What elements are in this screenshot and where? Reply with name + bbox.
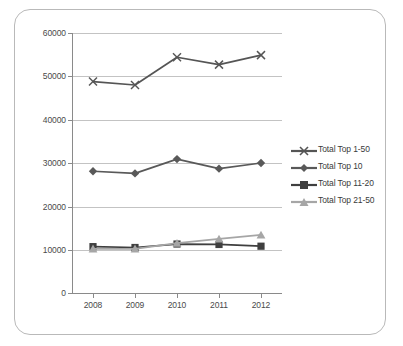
legend-swatch-x-marker-icon xyxy=(291,143,317,155)
series-total-top-10 xyxy=(89,155,265,178)
data-point-marker xyxy=(215,164,223,172)
legend-label: Total Top 1-50 xyxy=(318,144,370,154)
legend-swatch-diamond-marker-icon xyxy=(291,160,317,172)
legend-item-total-top-11-20[interactable]: Total Top 11-20 xyxy=(291,174,391,191)
chart-legend: Total Top 1-50 Total Top 10 Total Top 11… xyxy=(291,140,391,208)
data-point-marker xyxy=(257,159,265,167)
legend-label: Total Top 11-20 xyxy=(318,178,374,188)
legend-label: Total Top 10 xyxy=(318,161,362,171)
data-point-marker xyxy=(131,169,139,177)
data-point-marker xyxy=(173,155,181,163)
legend-swatch-triangle-marker-icon xyxy=(291,194,317,206)
data-point-marker xyxy=(89,167,97,175)
legend-item-total-top-1-50[interactable]: Total Top 1-50 xyxy=(291,140,391,157)
line-chart: 60000 50000 40000 30000 20000 10000 0 20… xyxy=(0,0,403,346)
legend-item-total-top-10[interactable]: Total Top 10 xyxy=(291,157,391,174)
series-line xyxy=(93,55,261,85)
data-point-marker xyxy=(257,243,264,250)
series-total-top-1-50 xyxy=(89,51,265,89)
series-total-top-21-50 xyxy=(89,231,266,253)
legend-item-total-top-21-50[interactable]: Total Top 21-50 xyxy=(291,191,391,208)
legend-label: Total Top 21-50 xyxy=(318,195,374,205)
legend-swatch-square-marker-icon xyxy=(291,177,317,189)
